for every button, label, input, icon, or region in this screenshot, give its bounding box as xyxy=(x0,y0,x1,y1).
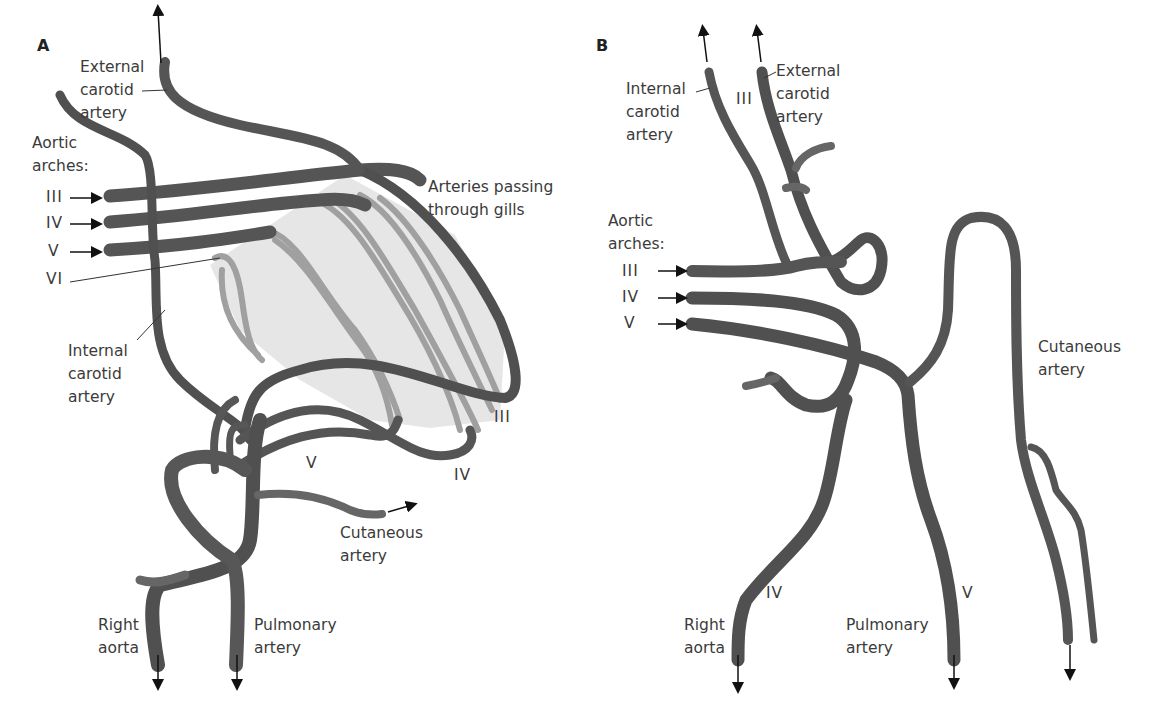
label-right-aorta: Right aorta xyxy=(684,614,725,660)
label-loop-v: V xyxy=(306,454,318,472)
crossing-loop xyxy=(171,457,245,665)
external-carotid-vessel xyxy=(164,62,360,170)
label-external-carotid-artery: External carotid artery xyxy=(80,56,144,125)
label-arch-iv: IV xyxy=(46,214,63,232)
cutaneous-vessel xyxy=(910,217,1068,640)
label-cutaneous-artery: Cutaneous artery xyxy=(340,522,423,568)
label-cutaneous-artery: Cutaneous artery xyxy=(1038,336,1121,382)
label-right-aorta: Right aorta xyxy=(98,614,139,660)
label-aortic-arches: Aortic arches: xyxy=(608,210,665,256)
label-arch-iii: III xyxy=(46,188,63,206)
label-loop-iii: III xyxy=(494,408,511,426)
panel-label-a: A xyxy=(37,36,49,55)
label-arch-v: V xyxy=(48,242,60,260)
label-arteries-through-gills: Arteries passing through gills xyxy=(428,176,553,222)
label-arch-iii: III xyxy=(622,262,639,280)
label-aortic-arches: Aortic arches: xyxy=(32,132,89,178)
label-external-carotid-artery: External carotid artery xyxy=(776,60,840,129)
panel-label-b: B xyxy=(596,36,608,55)
arch-III-vessel xyxy=(692,262,841,271)
label-arch-v: V xyxy=(624,314,636,332)
panel-a-tadpole-circulation: A External carotid artery Aortic arches:… xyxy=(0,0,576,708)
cutaneous-vessel xyxy=(258,494,382,515)
side-stub xyxy=(140,575,185,582)
label-internal-carotid-artery: Internal carotid artery xyxy=(626,78,686,147)
label-vessel-v: V xyxy=(962,584,974,602)
panel-b-adult-circulation: B Internal carotid artery III External c… xyxy=(576,0,1152,708)
label-arch-iii-upper: III xyxy=(736,90,753,108)
label-pulmonary-artery: Pulmonary artery xyxy=(846,614,929,660)
label-arch-vi: VI xyxy=(46,270,63,288)
label-loop-iv: IV xyxy=(454,466,471,484)
label-internal-carotid-artery: Internal carotid artery xyxy=(68,340,128,409)
label-pulmonary-artery: Pulmonary artery xyxy=(254,614,337,660)
label-vessel-iv: IV xyxy=(766,584,783,602)
label-arch-iv: IV xyxy=(622,288,639,306)
